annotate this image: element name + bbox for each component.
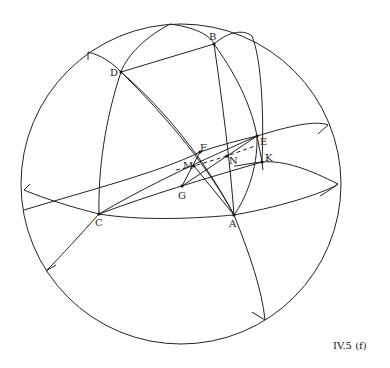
figure-caption: IV.5 (f) <box>333 340 367 351</box>
label-G: G <box>178 190 186 201</box>
label-K: K <box>265 152 273 163</box>
line-G-E <box>182 136 257 186</box>
label-C: C <box>95 217 103 228</box>
sphere-outline <box>21 24 341 344</box>
line-horizon-upper <box>24 136 257 210</box>
label-E: E <box>260 136 267 147</box>
label-B: B <box>209 31 216 42</box>
point-C <box>97 212 100 215</box>
equator-right-tick <box>320 184 338 196</box>
ecliptic-circle <box>99 123 328 214</box>
ecliptic-lower-left <box>46 214 99 271</box>
point-D <box>119 70 122 73</box>
meridian-A-bottom <box>234 215 265 320</box>
meridian-D-C <box>99 24 170 214</box>
label-A: A <box>228 218 237 229</box>
point-B <box>212 42 215 45</box>
meridian-bottom-tick <box>252 312 265 320</box>
point-K <box>260 160 263 163</box>
label-D: D <box>110 67 118 78</box>
equator-back <box>234 162 338 184</box>
line-C-K <box>99 162 262 214</box>
arc-B-E <box>214 44 257 215</box>
label-N: N <box>229 155 238 166</box>
point-G <box>180 184 183 187</box>
point-A <box>232 213 235 216</box>
line-M-A <box>194 166 234 215</box>
label-F: F <box>200 142 207 153</box>
point-E <box>255 134 258 137</box>
equator-left-tick <box>24 184 30 190</box>
label-M: M <box>183 160 193 171</box>
ecliptic-right-tick <box>318 125 328 134</box>
line-D-B <box>121 44 214 72</box>
sphere-diagram: A B C D E F G K M N <box>0 0 390 368</box>
